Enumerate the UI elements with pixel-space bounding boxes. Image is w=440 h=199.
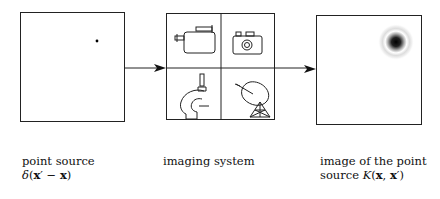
imaging-system-label: imaging system <box>163 154 255 168</box>
video-camera-icon <box>175 25 215 53</box>
imaging-system-box <box>167 14 275 120</box>
point-spread-function-blob <box>378 24 414 60</box>
point-source-dot <box>96 40 99 43</box>
photo-camera-icon <box>233 32 262 54</box>
point-source-box <box>21 13 125 122</box>
arrow-right-icon <box>275 65 316 73</box>
kernel-formula: source K(x, x′) <box>320 168 427 182</box>
delta-formula: δ(x′ − x) <box>22 168 95 182</box>
image-label: image of the point source K(x, x′) <box>320 154 427 182</box>
satellite-dish-icon <box>235 82 270 117</box>
microscope-icon <box>180 74 209 119</box>
arrow-right-icon <box>125 64 166 72</box>
point-source-label: point source δ(x′ − x) <box>22 154 95 182</box>
point-spread-image-box <box>317 16 422 125</box>
